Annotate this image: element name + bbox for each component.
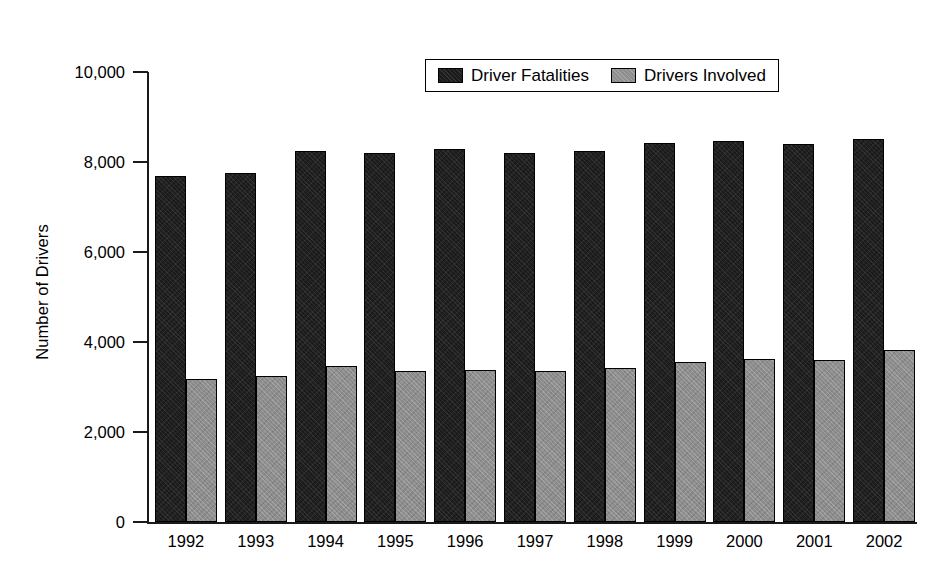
y-axis-tick bbox=[133, 341, 148, 343]
legend-label: Drivers Involved bbox=[644, 67, 766, 84]
x-axis-tick-label: 1993 bbox=[216, 533, 296, 550]
y-axis-tick-label: 0 bbox=[35, 514, 125, 531]
bar-group bbox=[713, 72, 775, 522]
legend-swatch-icon bbox=[438, 68, 463, 83]
x-axis-tick-label: 1992 bbox=[146, 533, 226, 550]
bar-driver-fatalities bbox=[783, 144, 814, 522]
legend-label: Driver Fatalities bbox=[471, 67, 589, 84]
bar-group bbox=[853, 72, 915, 522]
bar-drivers-involved bbox=[675, 362, 706, 522]
bar-group bbox=[225, 72, 287, 522]
bar-driver-fatalities bbox=[364, 153, 395, 522]
bar-driver-fatalities bbox=[504, 153, 535, 522]
y-axis-tick-label: 8,000 bbox=[35, 154, 125, 171]
bar-group bbox=[295, 72, 357, 522]
y-axis-tick-label: 4,000 bbox=[35, 334, 125, 351]
y-axis-tick bbox=[133, 431, 148, 433]
y-axis-tick bbox=[133, 251, 148, 253]
x-axis-tick-label: 2002 bbox=[844, 533, 924, 550]
bar-group bbox=[783, 72, 845, 522]
bar-group bbox=[364, 72, 426, 522]
bar-drivers-involved bbox=[186, 379, 217, 522]
x-axis-tick-label: 2000 bbox=[704, 533, 784, 550]
x-axis-tick-label: 1996 bbox=[425, 533, 505, 550]
bar-drivers-involved bbox=[535, 371, 566, 522]
y-axis-tick bbox=[133, 521, 148, 523]
x-axis-tick-label: 1998 bbox=[565, 533, 645, 550]
bar-drivers-involved bbox=[605, 368, 636, 522]
y-axis-tick-label: 10,000 bbox=[35, 64, 125, 81]
bar-group bbox=[644, 72, 706, 522]
chart-legend: Driver FatalitiesDrivers Involved bbox=[425, 59, 779, 92]
bar-driver-fatalities bbox=[434, 149, 465, 523]
bar-driver-fatalities bbox=[644, 143, 675, 522]
bar-driver-fatalities bbox=[295, 151, 326, 522]
bar-drivers-involved bbox=[395, 371, 426, 522]
x-axis-tick-label: 1997 bbox=[495, 533, 575, 550]
bar-group bbox=[155, 72, 217, 522]
y-axis-tick-label: 2,000 bbox=[35, 424, 125, 441]
plot-area bbox=[149, 72, 917, 522]
bar-chart: Number of Drivers 02,0004,0006,0008,0001… bbox=[0, 0, 951, 584]
bar-drivers-involved bbox=[326, 366, 357, 522]
bar-drivers-involved bbox=[256, 376, 287, 522]
bar-driver-fatalities bbox=[155, 176, 186, 522]
x-axis-tick-label: 1995 bbox=[355, 533, 435, 550]
bar-driver-fatalities bbox=[713, 141, 744, 522]
bar-group bbox=[504, 72, 566, 522]
bar-driver-fatalities bbox=[574, 151, 605, 522]
bar-group bbox=[434, 72, 496, 522]
bar-drivers-involved bbox=[465, 370, 496, 522]
y-axis-title: Number of Drivers bbox=[22, 0, 62, 584]
bar-drivers-involved bbox=[744, 359, 775, 522]
x-axis-line bbox=[147, 522, 917, 524]
x-axis-tick-label: 1999 bbox=[635, 533, 715, 550]
y-axis-tick bbox=[133, 71, 148, 73]
bar-drivers-involved bbox=[884, 350, 915, 522]
legend-entry-driver-fatalities: Driver Fatalities bbox=[438, 67, 589, 84]
x-axis-tick-label: 2001 bbox=[774, 533, 854, 550]
bar-driver-fatalities bbox=[853, 139, 884, 522]
y-axis-tick bbox=[133, 161, 148, 163]
legend-entry-drivers-involved: Drivers Involved bbox=[611, 67, 766, 84]
bar-driver-fatalities bbox=[225, 173, 256, 522]
y-axis-tick-label: 6,000 bbox=[35, 244, 125, 261]
x-axis-tick-label: 1994 bbox=[286, 533, 366, 550]
bar-group bbox=[574, 72, 636, 522]
bar-drivers-involved bbox=[814, 360, 845, 522]
legend-swatch-icon bbox=[611, 68, 636, 83]
